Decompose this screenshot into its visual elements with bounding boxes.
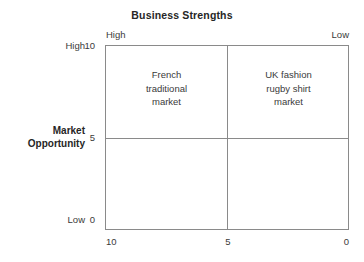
- y-axis-tick-10: 10: [73, 40, 95, 51]
- x-axis-low-label: Low: [332, 29, 349, 40]
- x-axis-tick-10: 10: [106, 236, 117, 247]
- x-axis-tick-0: 0: [344, 236, 349, 247]
- matrix-chart: Business Strengths High Low Market Oppor…: [0, 0, 364, 262]
- y-axis-tick-0: 0: [73, 214, 95, 225]
- x-axis-high-label: High: [106, 29, 126, 40]
- x-axis-tick-5: 5: [225, 236, 230, 247]
- quadrant-top-left: French traditional market: [106, 68, 227, 109]
- chart-title: Business Strengths: [0, 9, 364, 21]
- quadrant-top-left-label: French traditional market: [146, 68, 187, 109]
- y-axis-tick-5: 5: [73, 132, 95, 143]
- quadrant-top-right: UK fashion rugby shirt market: [228, 68, 349, 109]
- quadrant-top-right-label: UK fashion rugby shirt market: [265, 68, 311, 109]
